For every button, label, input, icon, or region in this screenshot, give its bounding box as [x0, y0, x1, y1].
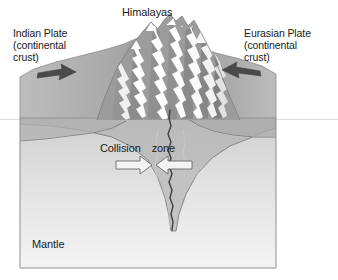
eurasian-plate-label: Eurasian Plate(continentalcrust) [244, 27, 311, 64]
collision-zone-label: Collisionzone [100, 142, 175, 154]
indian-plate-label: Indian Plate(continentalcrust) [13, 27, 67, 64]
indian-plate-label-line2: (continental [13, 39, 66, 51]
zone-word: zone [152, 142, 175, 154]
eurasian-plate-label-line2: (continental [244, 39, 297, 51]
eurasian-plate-label-line3: crust) [244, 51, 270, 63]
indian-plate-label-line3: crust) [13, 51, 39, 63]
mantle-label: Mantle [32, 238, 64, 250]
figure-root: Himalayas Indian Plate(continentalcrust)… [0, 0, 338, 280]
indian-plate-label-line1: Indian Plate [13, 27, 67, 39]
eurasian-plate-label-line1: Eurasian Plate [244, 27, 311, 39]
himalayas-label: Himalayas [122, 6, 172, 18]
himalaya-mountain-range [97, 13, 240, 120]
collision-word: Collision [100, 142, 141, 154]
